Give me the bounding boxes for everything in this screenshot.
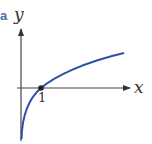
x-axis-label: x xyxy=(134,77,144,97)
log-curve xyxy=(22,53,125,139)
log-graph: a y x 1 xyxy=(0,0,152,144)
y-axis-label: y xyxy=(13,4,24,24)
panel-label: a xyxy=(0,8,8,23)
tick-label-1: 1 xyxy=(38,90,46,105)
